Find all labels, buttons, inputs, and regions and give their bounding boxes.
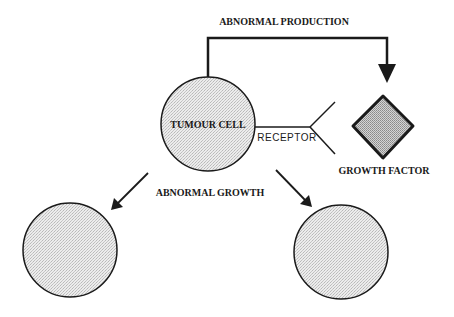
growth-factor-label: GROWTH FACTOR [338, 165, 430, 176]
diagram-canvas: ABNORMAL PRODUCTION TUMOUR CELL RECEPTOR… [0, 0, 454, 317]
abnormal-production-arrow [208, 38, 396, 83]
receptor-shape [255, 102, 335, 154]
tumour-cell-label: TUMOUR CELL [170, 119, 246, 130]
abnormal-growth-arrow-right [276, 170, 312, 207]
receptor-label: RECEPTOR [257, 132, 316, 143]
growth-factor-diamond [353, 96, 413, 158]
abnormal-production-label: ABNORMAL PRODUCTION [219, 16, 350, 27]
daughter-cell-left [23, 203, 117, 297]
abnormal-growth-label: ABNORMAL GROWTH [156, 187, 265, 198]
abnormal-growth-arrow-left [111, 173, 148, 210]
arrowhead-icon [378, 64, 396, 83]
daughter-cell-right [294, 205, 388, 299]
